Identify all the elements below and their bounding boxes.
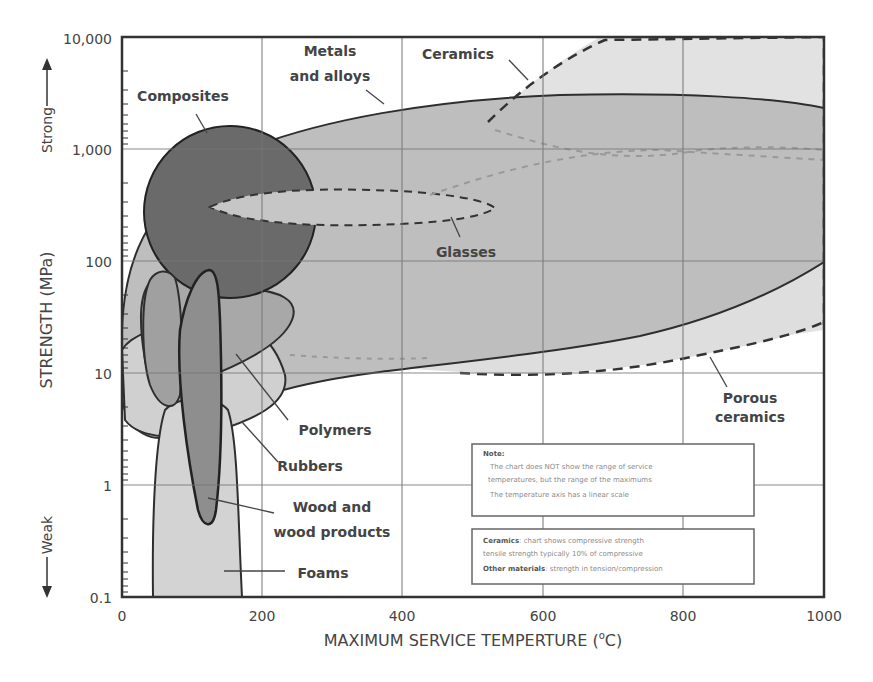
x-tick-800: 800 — [670, 608, 697, 624]
label-wood-line1: Wood and — [293, 499, 372, 515]
legend-box: Ceramics: chart shows compressive streng… — [472, 529, 754, 584]
label-metals-line2: and alloys — [290, 68, 370, 84]
materials-chart: 10,000 1,000 100 10 1 0.1 0 200 400 600 … — [0, 0, 873, 682]
note-line2: temperatures, but the range of the maxim… — [488, 476, 652, 484]
y-axis-title: STRENGTH (MPa) — [37, 252, 56, 389]
x-tick-600: 600 — [530, 608, 557, 624]
label-rubbers: Rubbers — [277, 458, 343, 474]
label-foams: Foams — [298, 565, 349, 581]
y-tick-10: 10 — [94, 366, 112, 382]
note-line3: The temperature axis has a linear scale — [489, 491, 629, 499]
label-wood-line2: wood products — [274, 524, 391, 540]
x-tick-200: 200 — [249, 608, 276, 624]
x-axis-title: MAXIMUM SERVICE TEMPERTURE (oC) — [324, 630, 622, 650]
arrow-up-icon — [42, 58, 52, 106]
label-porous-line1: Porous — [723, 390, 778, 406]
x-tick-0: 0 — [118, 608, 127, 624]
label-glasses: Glasses — [436, 244, 496, 260]
legend-other: Other materials: strength in tension/com… — [483, 565, 663, 573]
label-porous-line2: ceramics — [715, 409, 785, 425]
arrow-down-icon — [42, 557, 52, 598]
legend-ceramics-line2: tensile strength typically 10% of compre… — [483, 550, 643, 558]
label-polymers: Polymers — [298, 422, 371, 438]
label-ceramics: Ceramics — [422, 46, 494, 62]
y-tick-1: 1 — [103, 478, 112, 494]
note-title: Note: — [483, 450, 505, 458]
legend-ceramics-line1: Ceramics: chart shows compressive streng… — [483, 537, 644, 545]
weak-label: Weak — [39, 515, 55, 554]
strong-label: Strong — [39, 107, 55, 153]
y-tick-100: 100 — [85, 254, 112, 270]
note-line1: The chart does NOT show the range of ser… — [489, 463, 652, 471]
x-tick-400: 400 — [389, 608, 416, 624]
y-tick-0-1: 0.1 — [90, 590, 112, 606]
y-tick-10000: 10,000 — [63, 31, 112, 47]
x-tick-1000: 1000 — [806, 608, 842, 624]
label-metals-line1: Metals — [304, 43, 357, 59]
y-tick-1000: 1,000 — [72, 142, 112, 158]
label-composites: Composites — [137, 88, 229, 104]
note-box: Note: The chart does NOT show the range … — [472, 444, 754, 516]
